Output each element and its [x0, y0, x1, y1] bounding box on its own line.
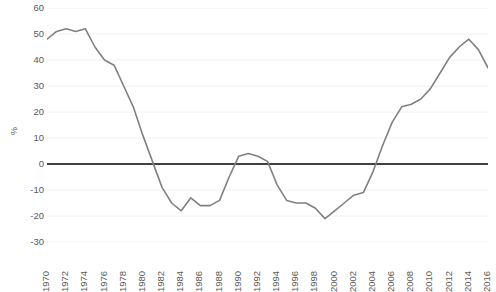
x-tick-label: 1998: [309, 271, 319, 292]
x-tick-label: 1974: [79, 271, 89, 292]
plot-svg: [47, 8, 488, 242]
x-tick-label: 2008: [405, 271, 415, 292]
x-tick-label: 1976: [99, 271, 109, 292]
y-tick-label: 20: [10, 107, 44, 117]
x-tick-label: 1980: [137, 271, 147, 292]
x-tick-label: 2012: [444, 271, 454, 292]
gridlines: [47, 8, 488, 242]
x-tick-label: 1982: [156, 271, 166, 292]
plot-area: [47, 8, 488, 242]
x-tick-label: 1988: [214, 271, 224, 292]
y-tick-label: 30: [10, 81, 44, 91]
y-tick-label: 50: [10, 29, 44, 39]
x-axis-tick-labels: 1970197219741976197819801982198419861988…: [47, 244, 488, 292]
x-tick-label: 2010: [424, 271, 434, 292]
x-tick-label: 2004: [367, 271, 377, 292]
y-tick-label: -30: [10, 237, 44, 247]
x-tick-label: 1996: [290, 271, 300, 292]
y-axis-tick-labels: 6050403020100-10-20-30: [10, 0, 44, 292]
x-tick-label: 2000: [329, 271, 339, 292]
x-tick-label: 1986: [194, 271, 204, 292]
x-tick-label: 1984: [175, 271, 185, 292]
x-tick-label: 1972: [60, 271, 70, 292]
x-tick-label: 1990: [233, 271, 243, 292]
y-tick-label: -10: [10, 185, 44, 195]
y-tick-label: 0: [10, 159, 44, 169]
y-tick-label: -20: [10, 211, 44, 221]
x-tick-label: 1978: [118, 271, 128, 292]
y-tick-label: 10: [10, 133, 44, 143]
y-tick-label: 60: [10, 3, 44, 13]
x-tick-label: 2014: [463, 271, 473, 292]
y-tick-label: 40: [10, 55, 44, 65]
x-tick-label: 2006: [386, 271, 396, 292]
x-tick-label: 2016: [482, 271, 492, 292]
x-tick-label: 1994: [271, 271, 281, 292]
x-tick-label: 2002: [348, 271, 358, 292]
line-chart: % 6050403020100-10-20-30 197019721974197…: [0, 0, 496, 292]
x-tick-label: 1992: [252, 271, 262, 292]
x-tick-label: 1970: [41, 271, 51, 292]
